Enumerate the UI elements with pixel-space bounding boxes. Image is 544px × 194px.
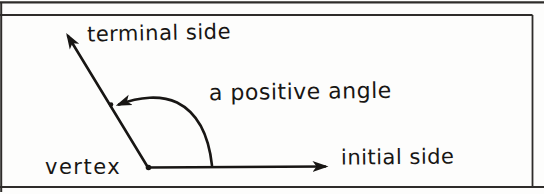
initial-side-label: initial side: [341, 145, 455, 169]
terminal-side-label: terminal side: [87, 20, 231, 46]
vertex-label: vertex: [45, 156, 121, 179]
vertex-dot: [146, 165, 152, 171]
positive-angle-arc: [119, 98, 212, 166]
angle-diagram-figure: terminal side a positive angle vertex in…: [0, 0, 544, 194]
arc-contact-dot: [109, 102, 114, 107]
terminal-side-arrow: [68, 36, 148, 168]
positive-angle-label: a positive angle: [209, 79, 392, 106]
initial-side-arrow: [148, 167, 325, 168]
